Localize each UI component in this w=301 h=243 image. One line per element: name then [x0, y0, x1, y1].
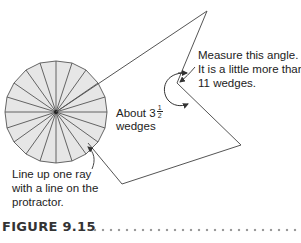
fraction-one-half: 12 — [157, 104, 163, 119]
wedges-label: wedges — [116, 120, 156, 134]
fraction-denominator: 2 — [157, 112, 163, 119]
measure-angle-line3: 11 wedges. — [198, 77, 256, 91]
about-wedges-label: About 312 — [116, 106, 163, 121]
measure-angle-line1: Measure this angle. — [198, 49, 298, 63]
about-wedges-text: About 3 — [116, 107, 156, 119]
caption-dotted-rule — [91, 228, 299, 232]
lineup-line2: with a line on the — [12, 182, 98, 196]
figure-caption: FIGURE 9.15 — [2, 219, 96, 234]
fraction-numerator: 1 — [157, 104, 163, 112]
ray-to-top-vertex — [56, 11, 207, 112]
edge-reflex-to-right — [177, 83, 241, 145]
lineup-line3: protractor. — [12, 196, 64, 210]
measure-angle-line2: It is a little more than — [198, 63, 301, 77]
ray-bottom-to-center — [88, 143, 122, 184]
figure-9-15: About 312 wedges Measure this angle. It … — [0, 0, 301, 243]
edge-right-to-bottom — [122, 145, 241, 184]
lineup-line1: Line up one ray — [12, 168, 91, 182]
